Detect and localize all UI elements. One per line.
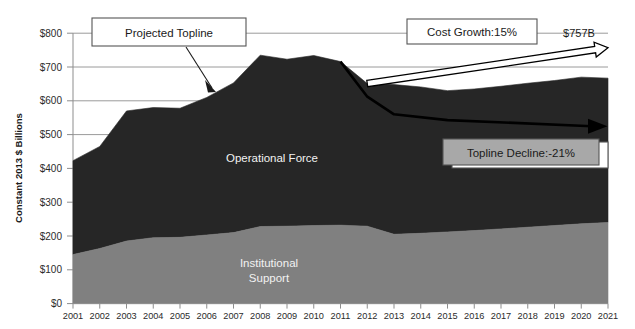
x-tick-label: 2008	[250, 311, 270, 321]
x-tick-label: 2009	[277, 311, 297, 321]
x-tick-label: 2012	[357, 311, 377, 321]
chart-container: Operational Force Institutional Support …	[0, 0, 635, 329]
x-tick-label: 2001	[63, 311, 83, 321]
callout-projected-topline-text: Projected Topline	[125, 27, 213, 39]
x-tick-label: 2013	[384, 311, 404, 321]
x-tick-label: 2016	[464, 311, 484, 321]
x-tick-label: 2004	[143, 311, 163, 321]
y-tick-label: $600	[40, 95, 63, 106]
x-tick-label: 2019	[544, 311, 564, 321]
x-tick-label: 2011	[331, 311, 351, 321]
callout-cost-growth-text: Cost Growth:15%	[427, 26, 517, 38]
y-tick-label: $200	[40, 231, 63, 242]
y-tick-label: $700	[40, 62, 63, 73]
x-tick-label: 2010	[304, 311, 324, 321]
y-tick-label: $300	[40, 197, 63, 208]
x-tick-label: 2015	[437, 311, 457, 321]
x-tick-label: 2018	[518, 311, 538, 321]
x-tick-label: 2003	[116, 311, 136, 321]
stacked-area-chart: Operational Force Institutional Support …	[0, 0, 635, 329]
x-tick-label: 2017	[491, 311, 511, 321]
y-tick-label: $400	[40, 163, 63, 174]
y-tick-label: $0	[51, 298, 63, 309]
y-axis-title: Constant 2013 $ Billions	[13, 113, 24, 223]
x-tick-label: 2014	[411, 311, 431, 321]
endpoint-value-label: $757B	[563, 27, 595, 39]
y-tick-label: $100	[40, 264, 63, 275]
y-tick-labels: $800$700$600$500$400$300$200$100$0	[40, 28, 63, 309]
x-tick-label: 2002	[90, 311, 110, 321]
x-axis	[73, 304, 608, 309]
x-tick-label: 2005	[170, 311, 190, 321]
x-tick-label: 2020	[571, 311, 591, 321]
callout-cost-growth[interactable]: Cost Growth:15%	[407, 19, 537, 44]
callout-topline-decline-text: Topline Decline:-21%	[467, 147, 575, 159]
area-series	[73, 55, 608, 303]
y-tick-label: $500	[40, 129, 63, 140]
y-axis	[67, 33, 73, 303]
institutional-support-label-line1: Institutional	[240, 257, 298, 269]
x-tick-label: 2007	[223, 311, 243, 321]
operational-force-label: Operational Force	[226, 152, 318, 164]
institutional-support-label-line2: Support	[249, 272, 290, 284]
x-tick-labels: 2001200220032004200520062007200820092010…	[63, 311, 618, 321]
x-tick-label: 2021	[598, 311, 618, 321]
callout-projected-topline[interactable]: Projected Topline	[92, 18, 246, 93]
x-tick-label: 2006	[197, 311, 217, 321]
y-tick-label: $800	[40, 28, 63, 39]
callout-topline-decline[interactable]: Topline Decline:-21%	[443, 139, 608, 168]
